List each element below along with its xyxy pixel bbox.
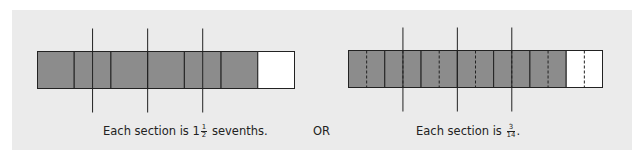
right-caption-denominator: 14 [507,132,516,139]
right-caption-prefix: Each section is [416,124,506,138]
right-fraction-bar [349,28,603,112]
left-caption-fraction: 12 [201,124,207,139]
shaded-part [38,52,75,89]
or-separator: OR [313,124,330,138]
left-fraction-bar [38,29,295,113]
left-caption-prefix: Each section is [103,124,193,138]
shaded-part [221,52,258,89]
left-caption-denominator: 2 [201,132,207,139]
unshaded-part [258,52,295,89]
left-caption-whole: 1 [193,124,200,138]
right-caption: Each section is 314. [416,124,520,139]
left-caption-suffix: sevenths. [208,124,267,138]
right-caption-suffix: . [516,124,520,138]
left-caption: Each section is 112 sevenths. [103,124,268,139]
shaded-part [148,52,185,89]
right-caption-fraction: 314 [507,124,516,139]
shaded-part [111,52,148,89]
